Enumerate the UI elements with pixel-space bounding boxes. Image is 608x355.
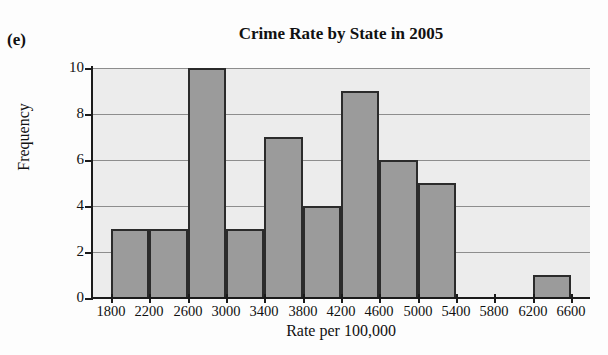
y-axis-title: Frequency bbox=[15, 77, 33, 197]
x-axis-tick bbox=[111, 294, 113, 303]
x-axis-tick bbox=[188, 294, 190, 303]
histogram-bar bbox=[341, 91, 379, 299]
y-axis-tick bbox=[85, 298, 93, 300]
y-axis-tick bbox=[85, 114, 93, 116]
x-axis-tick bbox=[571, 294, 573, 303]
y-axis-tick-label: 2 bbox=[56, 244, 84, 259]
y-axis-tick-label: 6 bbox=[56, 152, 84, 167]
x-axis-tick bbox=[149, 294, 151, 303]
histogram-bar bbox=[226, 229, 264, 299]
x-axis-tick-label: 2200 bbox=[127, 303, 171, 320]
plot-area bbox=[92, 68, 590, 298]
x-axis-tick-label: 6600 bbox=[549, 303, 593, 320]
y-axis-tick bbox=[85, 160, 93, 162]
x-axis-tick bbox=[303, 294, 305, 303]
histogram-bar bbox=[188, 68, 226, 299]
x-axis-tick-label: 3400 bbox=[242, 303, 286, 320]
histogram-bar bbox=[533, 275, 571, 299]
x-axis-tick bbox=[226, 294, 228, 303]
y-axis-line bbox=[91, 66, 93, 300]
y-axis-tick-label: 10 bbox=[56, 60, 84, 75]
gridline bbox=[92, 68, 590, 69]
y-axis-tick-label: 0 bbox=[56, 290, 84, 305]
x-axis-tick bbox=[341, 294, 343, 303]
histogram-bar bbox=[149, 229, 187, 299]
histogram-bar bbox=[111, 229, 149, 299]
x-axis-tick-label: 5800 bbox=[472, 303, 516, 320]
y-axis-tick-label: 4 bbox=[56, 198, 84, 213]
y-axis-tick bbox=[85, 252, 93, 254]
histogram-bar bbox=[303, 206, 341, 299]
histogram-bar bbox=[379, 160, 417, 299]
y-axis-tick-label: 8 bbox=[56, 106, 84, 121]
x-axis-tick bbox=[494, 294, 496, 303]
panel-letter-label: (e) bbox=[7, 30, 26, 50]
x-axis-title: Rate per 100,000 bbox=[92, 322, 590, 340]
histogram-bar bbox=[264, 137, 302, 299]
x-axis-tick bbox=[418, 294, 420, 303]
x-axis-tick bbox=[264, 294, 266, 303]
x-axis-tick bbox=[379, 294, 381, 303]
x-axis-tick bbox=[456, 294, 458, 303]
histogram-figure: (e) Crime Rate by State in 2005 0246810 … bbox=[0, 0, 608, 355]
x-axis-tick-label: 4600 bbox=[357, 303, 401, 320]
y-axis-tick bbox=[85, 206, 93, 208]
histogram-bar bbox=[418, 183, 456, 299]
x-axis-tick bbox=[533, 294, 535, 303]
y-axis-tick bbox=[85, 68, 93, 70]
chart-title: Crime Rate by State in 2005 bbox=[92, 24, 590, 44]
